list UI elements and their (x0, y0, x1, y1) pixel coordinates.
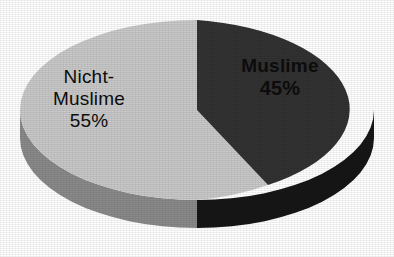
slice-label-nicht-muslime-value: 55% (24, 110, 154, 132)
slice-label-muslime-value: 45% (222, 77, 338, 100)
slice-label-muslime-name: Muslime (241, 55, 318, 76)
slice-label-muslime: Muslime 45% (222, 55, 338, 100)
pie-chart: Muslime 45% Nicht- Muslime 55% (0, 0, 394, 257)
slice-label-nicht-muslime-name-line1: Nicht- (24, 66, 154, 88)
slice-label-nicht-muslime: Nicht- Muslime 55% (24, 66, 154, 132)
slice-label-nicht-muslime-name-line2: Muslime (24, 88, 154, 110)
